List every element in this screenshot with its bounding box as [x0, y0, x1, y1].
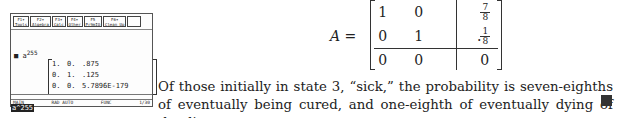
- qed-square-icon: [601, 95, 612, 106]
- toolbar-key-f5[interactable]: F5Pr9mIO: [84, 16, 102, 27]
- status-bar: MAIN RAD AUTO FUNC 1/30: [11, 99, 152, 106]
- left-bracket: [48, 59, 52, 95]
- toolbar-key-f2[interactable]: F2▾Algebra: [30, 16, 51, 27]
- equation-lhs: A =: [330, 28, 356, 44]
- vertical-partition: [456, 0, 457, 70]
- result-matrix: 1. 0. .875 0. 1. .125 0. 0. 5.7896E-179: [48, 59, 151, 95]
- horizontal-partition: [374, 48, 498, 49]
- calculator-screen: F1▾Tools F2▾Algebra F3▾Calc F4▾Other F5P…: [10, 13, 153, 107]
- calculator-toolbar: F1▾Tools F2▾Algebra F3▾Calc F4▾Other F5P…: [13, 16, 142, 27]
- body-paragraph: Of those initially in state 3, “sick,” t…: [158, 78, 613, 118]
- toolbar-key-f6[interactable]: F6▾Clean Up: [103, 16, 126, 27]
- right-bracket: [497, 0, 502, 70]
- right-bracket: [153, 59, 157, 95]
- block-matrix: 1 0 78 0 1 18 0 0 0: [370, 2, 502, 70]
- toolbar-key-f4[interactable]: F4▾Other: [67, 16, 83, 27]
- matrix-row: 0. 1. .125: [48, 70, 151, 81]
- fraction-one-eighth: 18: [480, 27, 490, 46]
- history-entry: ■ a255: [14, 49, 38, 60]
- fraction-seven-eighths: 78: [480, 3, 490, 22]
- equation-period: .: [477, 28, 481, 44]
- matrix-row: 1. 0. .875: [48, 59, 151, 70]
- toolbar-key-f1[interactable]: F1▾Tools: [13, 16, 29, 27]
- toolbar-divider: [11, 29, 152, 30]
- left-bracket: [370, 0, 375, 70]
- matrix-row: 0. 0. 5.7896E-179: [48, 81, 151, 92]
- toolbar-key-f3[interactable]: F3▾Calc: [52, 16, 66, 27]
- toolbar-key-empty: [127, 16, 141, 27]
